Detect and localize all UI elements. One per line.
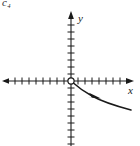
y-axis-label: y [77,12,83,24]
y-axis-top-arrowhead [68,11,74,19]
x-axis-label: x [127,84,133,96]
origin-open-circle [68,78,74,84]
coordinate-plot: y x [0,0,140,146]
curve-direction-arrowhead [88,93,101,99]
curve-path [72,82,132,111]
x-axis-left-arrowhead [2,78,9,84]
graph-figure: c₄ [0,0,140,146]
